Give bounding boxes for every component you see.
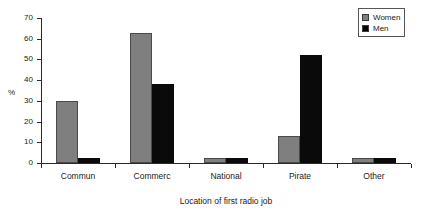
y-axis-title: % — [8, 88, 15, 97]
y-axis-tick — [37, 59, 41, 60]
bar-commun-men — [78, 158, 100, 163]
bar-pirate-women — [278, 136, 300, 163]
y-axis-tick-label: 70 — [11, 14, 33, 22]
x-axis-tick-label: Other — [337, 171, 411, 181]
x-axis-tick-label: Pirate — [263, 171, 337, 181]
bar-national-men — [226, 158, 248, 163]
y-axis-tick-label: 60 — [11, 35, 33, 43]
x-axis-tick-label: National — [189, 171, 263, 181]
legend-swatch-women — [362, 14, 369, 21]
x-axis-title: Location of first radio job — [41, 196, 411, 206]
y-axis-tick-label: 50 — [11, 55, 33, 63]
x-axis-tick — [337, 164, 338, 168]
bar-commerc-men — [152, 84, 174, 163]
x-axis-tick — [41, 164, 42, 168]
bar-commun-women — [56, 101, 78, 163]
bar-other-women — [352, 158, 374, 163]
x-axis-tick — [263, 164, 264, 168]
x-axis-tick-label: Commun — [41, 171, 115, 181]
y-axis-tick — [37, 101, 41, 102]
bar-pirate-men — [300, 55, 322, 163]
legend-label-women: Women — [373, 13, 400, 22]
y-axis-tick-label: 40 — [11, 76, 33, 84]
bar-other-men — [374, 158, 396, 163]
y-axis-tick-label: 30 — [11, 97, 33, 105]
bar-chart-figure: Women Men % 010203040506070 CommunCommer… — [0, 0, 425, 218]
y-axis-tick — [37, 18, 41, 19]
bar-national-women — [204, 158, 226, 163]
y-axis-tick-label: 10 — [11, 138, 33, 146]
y-axis-tick — [37, 80, 41, 81]
y-axis-tick — [37, 39, 41, 40]
x-axis-tick — [189, 164, 190, 168]
y-axis-tick-label: 20 — [11, 118, 33, 126]
y-axis-tick — [37, 122, 41, 123]
bar-commerc-women — [130, 33, 152, 164]
legend-entry-men: Men — [362, 23, 400, 33]
x-axis-tick — [115, 164, 116, 168]
y-axis-tick — [37, 142, 41, 143]
x-axis-tick — [411, 164, 412, 168]
legend-entry-women: Women — [362, 12, 400, 22]
legend-label-men: Men — [373, 24, 389, 33]
x-axis-line — [41, 163, 411, 164]
y-axis-line — [41, 18, 42, 163]
y-axis-tick-label: 0 — [11, 159, 33, 167]
chart-legend: Women Men — [358, 8, 405, 37]
x-axis-tick-label: Commerc — [115, 171, 189, 181]
legend-swatch-men — [362, 25, 369, 32]
